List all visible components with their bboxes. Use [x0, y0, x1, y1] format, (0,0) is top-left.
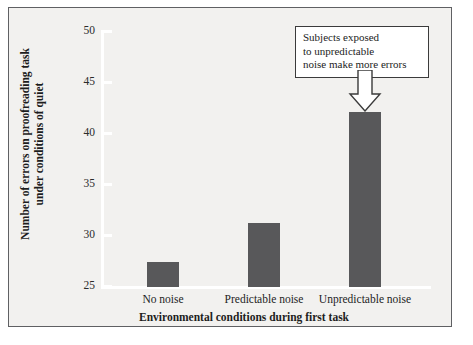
- y-axis-title-line2: under conditions of quiet: [33, 83, 45, 206]
- y-axis-title: Number of errors on proofreading task un…: [18, 13, 46, 275]
- y-axis-title-line1: Number of errors on proofreading task: [19, 48, 31, 240]
- y-tick-label-35: 35: [67, 177, 95, 189]
- bar-predictable-noise: [248, 223, 280, 287]
- y-tick-label-45: 45: [67, 75, 95, 87]
- figure-frame: 253035404550 Number of errors on proofre…: [8, 7, 452, 327]
- annotation-line-2: to unpredictable: [303, 45, 422, 59]
- y-tick-label-25: 25: [67, 279, 95, 291]
- y-tick-label-40: 40: [67, 126, 95, 138]
- y-tick-label-wrap: 50: [65, 24, 95, 36]
- y-tick-label-30: 30: [67, 228, 95, 240]
- y-tick-label-wrap: 40: [65, 126, 95, 138]
- y-tick-label-wrap: 25: [65, 279, 95, 291]
- figure-container: 253035404550 Number of errors on proofre…: [0, 0, 473, 345]
- bar-no-noise: [147, 262, 179, 288]
- x-label-unpredictable-noise: Unpredictable noise: [285, 293, 445, 305]
- annotation-arrow-icon: [347, 70, 383, 112]
- y-tick-label-50: 50: [67, 24, 95, 36]
- x-axis-title: Environmental conditions during first ta…: [49, 311, 439, 323]
- annotation-line-1: Subjects exposed: [303, 31, 422, 45]
- bar-unpredictable-noise: [349, 112, 381, 287]
- y-tick-label-wrap: 35: [65, 177, 95, 189]
- y-tick-label-wrap: 30: [65, 228, 95, 240]
- y-tick-label-wrap: 45: [65, 75, 95, 87]
